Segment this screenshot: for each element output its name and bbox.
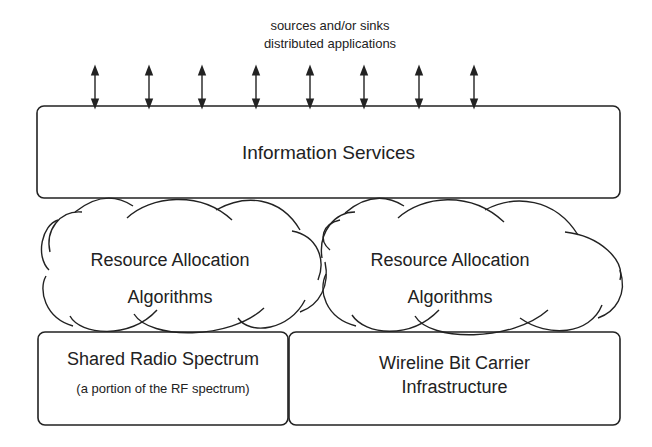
- information-services-label: Information Services: [37, 142, 620, 164]
- caption-line-1: sources and/or sinks: [150, 17, 510, 35]
- shared-radio-spectrum-sublabel: (a portion of the RF spectrum): [38, 381, 288, 396]
- cloud-left-line-2: Algorithms: [60, 279, 280, 316]
- applications-caption: sources and/or sinks distributed applica…: [150, 17, 510, 53]
- cloud-right-line-1: Resource Allocation: [340, 242, 560, 279]
- cloud-left-line-1: Resource Allocation: [60, 242, 280, 279]
- caption-line-2: distributed applications: [150, 35, 510, 53]
- shared-radio-spectrum-box: [38, 332, 288, 425]
- resource-allocation-left-label: Resource Allocation Algorithms: [60, 242, 280, 316]
- wireline-line-1: Wireline Bit Carrier: [289, 351, 620, 375]
- wireline-line-2: Infrastructure: [289, 375, 620, 399]
- wireline-infrastructure-label: Wireline Bit Carrier Infrastructure: [289, 351, 620, 399]
- cloud-right-line-2: Algorithms: [340, 279, 560, 316]
- bidirectional-arrows: [95, 70, 474, 104]
- shared-radio-spectrum-label: Shared Radio Spectrum: [38, 349, 288, 370]
- resource-allocation-right-label: Resource Allocation Algorithms: [340, 242, 560, 316]
